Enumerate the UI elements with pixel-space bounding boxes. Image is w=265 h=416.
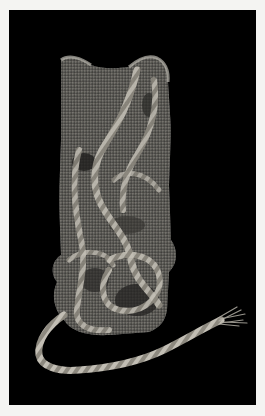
image-description: Grey, heavily textured rectangular woven…	[0, 0, 1, 1]
cord-tassel	[218, 307, 247, 326]
textile-photo	[9, 10, 256, 405]
photo-frame	[9, 10, 256, 405]
